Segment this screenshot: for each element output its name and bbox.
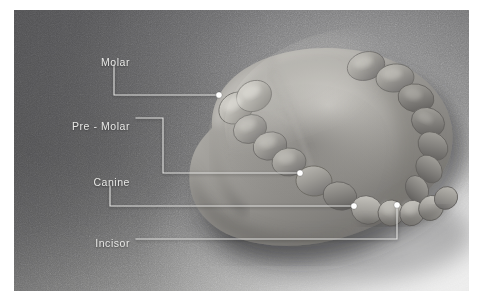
photograph-plate: MolarPre - MolarCanineIncisor (14, 10, 469, 291)
annotation-label-incisor: Incisor (14, 238, 130, 249)
annotation-label-pre-molar: Pre - Molar (14, 121, 130, 132)
dental-anatomy-figure: MolarPre - MolarCanineIncisor (0, 0, 485, 301)
annotation-label-canine: Canine (14, 177, 130, 188)
annotation-labels: MolarPre - MolarCanineIncisor (14, 10, 469, 291)
annotation-label-molar: Molar (14, 57, 130, 68)
